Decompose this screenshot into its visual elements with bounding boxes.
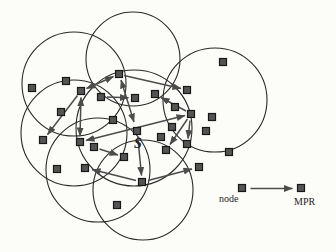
legend-mpr-square <box>298 185 305 192</box>
node-square <box>63 78 70 85</box>
node-square <box>226 149 233 156</box>
node-square <box>169 124 176 131</box>
node-square <box>220 59 227 66</box>
source-node-label: S <box>134 137 142 151</box>
node-square <box>54 166 61 173</box>
mpr-network-figure: S node MPR <box>0 0 336 252</box>
node-square <box>98 94 105 101</box>
link-arrow <box>92 170 136 181</box>
node-square <box>29 85 36 92</box>
node-square <box>114 202 121 209</box>
range-circle <box>86 12 180 106</box>
node-square <box>184 87 191 94</box>
link-arrow <box>124 76 181 89</box>
node-square <box>158 134 165 141</box>
node-square <box>209 114 216 121</box>
range-circle <box>93 140 193 240</box>
node-square <box>196 164 203 171</box>
legend-node-label: node <box>219 194 238 204</box>
node-square <box>163 147 170 154</box>
link-arrow <box>148 169 192 181</box>
range-circle <box>163 48 267 152</box>
node-square <box>116 71 123 78</box>
node-square <box>110 117 117 124</box>
diagram-svg <box>0 0 336 252</box>
legend-mpr-label: MPR <box>294 197 315 207</box>
link-arrow <box>80 98 81 137</box>
legend-node-square <box>239 185 246 192</box>
node-square <box>132 95 139 102</box>
node-square <box>184 141 191 148</box>
node-square <box>172 104 179 111</box>
node-square <box>91 144 98 151</box>
node-square <box>40 137 47 144</box>
link-arrow <box>107 97 129 98</box>
node-square <box>203 128 210 135</box>
node-square <box>58 109 65 116</box>
node-square <box>82 165 89 172</box>
node-square <box>78 88 85 95</box>
node-square <box>152 91 159 98</box>
link-arrow <box>188 121 190 139</box>
node-square <box>121 154 128 161</box>
node-square <box>77 139 84 146</box>
node-square <box>139 179 146 186</box>
range-circle <box>21 80 127 186</box>
node-square <box>188 111 195 118</box>
node-square <box>134 128 141 135</box>
